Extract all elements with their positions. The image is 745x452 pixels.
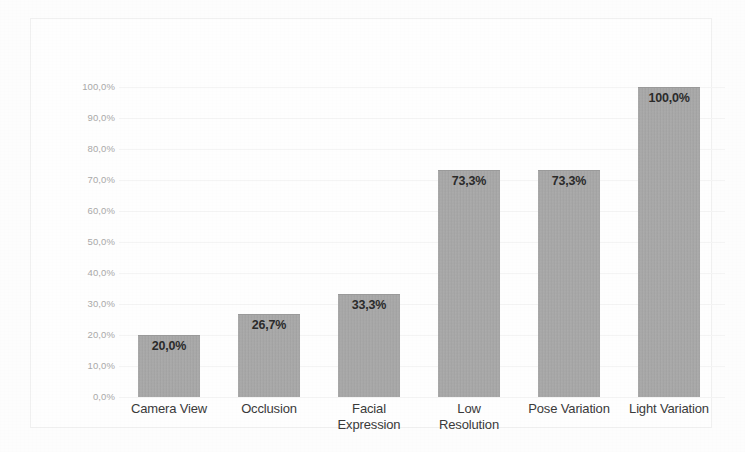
y-axis-tick-label: 30,0% <box>59 299 115 309</box>
bar-value-label: 100,0% <box>638 91 700 105</box>
y-axis-tick-label: 100,0% <box>59 82 115 92</box>
bar[interactable]: 26,7% <box>238 314 300 397</box>
x-axis-category-label: Pose Variation <box>519 401 619 417</box>
x-axis-category-label: Camera View <box>119 401 219 417</box>
y-axis-tick-label: 10,0% <box>59 361 115 371</box>
bar-slot: 100,0% <box>619 87 719 397</box>
y-axis-tick-label: 60,0% <box>59 206 115 216</box>
y-axis-tick-label: 0,0% <box>59 392 115 402</box>
bar-slot: 73,3% <box>519 87 619 397</box>
x-axis-category-line: Low <box>419 401 519 417</box>
x-axis-category-label: LowResolution <box>419 401 519 433</box>
bar[interactable]: 73,3% <box>538 170 600 397</box>
bar-value-label: 33,3% <box>338 298 400 312</box>
bar[interactable]: 73,3% <box>438 170 500 397</box>
x-axis-category-label: FacialExpression <box>319 401 419 433</box>
chart-screenshot: 0,0%10,0%20,0%30,0%40,0%50,0%60,0%70,0%8… <box>0 0 745 452</box>
x-axis-category-line: Pose Variation <box>519 401 619 417</box>
bar-series: 20,0%26,7%33,3%73,3%73,3%100,0% <box>119 87 725 397</box>
y-axis-tick-label: 40,0% <box>59 268 115 278</box>
bar[interactable]: 100,0% <box>638 87 700 397</box>
bar[interactable]: 20,0% <box>138 335 200 397</box>
y-axis-tick-label: 70,0% <box>59 175 115 185</box>
bar[interactable]: 33,3% <box>338 294 400 397</box>
bar-value-label: 26,7% <box>238 318 300 332</box>
y-axis-tick-label: 90,0% <box>59 113 115 123</box>
bar-value-label: 20,0% <box>138 339 200 353</box>
x-axis: Camera ViewOcclusionFacialExpressionLowR… <box>119 401 725 447</box>
bar-slot: 20,0% <box>119 87 219 397</box>
gridline <box>119 397 725 398</box>
x-axis-category-line: Resolution <box>419 417 519 433</box>
y-axis-tick-label: 50,0% <box>59 237 115 247</box>
bar-slot: 73,3% <box>419 87 519 397</box>
x-axis-category-line: Light Variation <box>619 401 719 417</box>
bar-slot: 26,7% <box>219 87 319 397</box>
y-axis-tick-label: 80,0% <box>59 144 115 154</box>
chart-frame: 0,0%10,0%20,0%30,0%40,0%50,0%60,0%70,0%8… <box>30 18 712 428</box>
x-axis-category-line: Facial <box>319 401 419 417</box>
bar-value-label: 73,3% <box>538 174 600 188</box>
y-axis-tick-label: 20,0% <box>59 330 115 340</box>
x-axis-category-label: Occlusion <box>219 401 319 417</box>
bar-slot: 33,3% <box>319 87 419 397</box>
x-axis-category-label: Light Variation <box>619 401 719 417</box>
x-axis-category-line: Occlusion <box>219 401 319 417</box>
x-axis-category-line: Camera View <box>119 401 219 417</box>
x-axis-category-line: Expression <box>319 417 419 433</box>
y-axis: 0,0%10,0%20,0%30,0%40,0%50,0%60,0%70,0%8… <box>57 87 115 397</box>
bar-value-label: 73,3% <box>438 174 500 188</box>
